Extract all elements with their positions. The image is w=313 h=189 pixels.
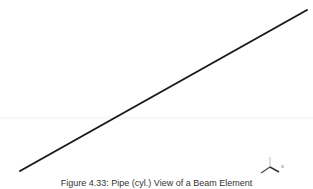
axis-triad-icon: x	[258, 156, 288, 176]
triad-axis-label: x	[281, 163, 284, 169]
beam-element	[0, 0, 313, 176]
figure-caption: Figure 4.33: Pipe (cyl.) View of a Beam …	[0, 177, 313, 189]
graphics-viewport: x	[0, 0, 313, 176]
